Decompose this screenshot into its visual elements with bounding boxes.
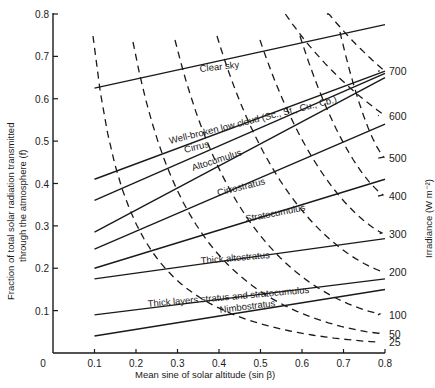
label-clear-sky: Clear sky	[199, 59, 240, 74]
y-tick-label: 0.1	[35, 306, 49, 317]
transmission-chart: 00.10.20.30.40.50.60.70.8 0.10.20.30.40.…	[0, 0, 435, 388]
y-tick-label: 0.4	[35, 179, 49, 190]
isoline-label-100: 100	[389, 309, 407, 321]
y-tick-label: 0.7	[35, 51, 49, 62]
x-tick-label: 0.1	[88, 358, 102, 369]
label-well-broken: Well-broken low cloud (Sc., St., Cu., Cb…	[168, 94, 338, 146]
x-tick-label: 0.4	[212, 358, 226, 369]
isoline-label-700: 700	[389, 65, 407, 77]
x-tick-label: 0.7	[337, 358, 351, 369]
x-tick-label: 0	[40, 358, 46, 369]
x-tick-label: 0.5	[254, 358, 268, 369]
isoline-100	[175, 40, 380, 315]
isoline-label-600: 600	[389, 110, 407, 122]
isoline-300	[260, 40, 382, 234]
isoline-700	[327, 14, 384, 71]
isoline-label-500: 500	[389, 152, 407, 164]
y-axis-title-line2: through the atmosphere (f)	[17, 150, 28, 262]
isoline-label-200: 200	[389, 266, 407, 278]
x-axis-title: Mean sine of solar altitude (sin β)	[135, 369, 275, 380]
y-tick-label: 0.6	[35, 94, 49, 105]
x-tick-label: 0.3	[171, 358, 185, 369]
x-tick-label: 0.8	[378, 358, 392, 369]
isoline-label-300: 300	[389, 228, 407, 240]
isoline-label-400: 400	[389, 190, 407, 202]
y-tick-label: 0.8	[35, 9, 49, 20]
x-tick-label: 0.2	[129, 358, 143, 369]
irradiance-labels: 7006005004003002001005025	[389, 65, 407, 348]
y-tick-label: 0.2	[35, 263, 49, 274]
series-line	[95, 25, 386, 89]
isoline-label-25: 25	[389, 336, 401, 348]
y-ticks: 0.10.20.30.40.50.60.70.8	[35, 9, 58, 317]
irradiance-axis-title: Irradiance (W m⁻²)	[423, 179, 434, 258]
x-tick-label: 0.6	[295, 358, 309, 369]
y-tick-label: 0.3	[35, 221, 49, 232]
x-ticks: 00.10.20.30.40.50.60.70.8	[40, 349, 392, 369]
y-axis-title-line1: Fraction of total solar radiation transm…	[5, 123, 16, 300]
y-tick-label: 0.5	[35, 136, 49, 147]
label-thick-altostratus: Thick altostratus	[200, 249, 270, 266]
label-stratocumulus: Stratocumulus	[244, 202, 306, 224]
